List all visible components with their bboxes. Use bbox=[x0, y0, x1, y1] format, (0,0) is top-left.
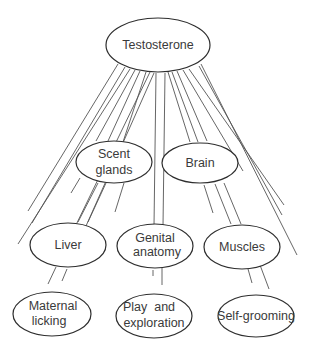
edge-testosterone-brain-1 bbox=[168, 72, 190, 142]
edge-testosterone-far-right-2 bbox=[199, 66, 282, 215]
node-play-exploration-label-2: exploration bbox=[123, 316, 184, 330]
edge-scent-liver-2 bbox=[78, 183, 98, 222]
edge-scent-genital bbox=[115, 183, 124, 212]
edge-testosterone-brain-3 bbox=[177, 71, 207, 141]
edge-scent-liver-3 bbox=[88, 183, 106, 222]
node-scent-glands-label-2: glands bbox=[96, 163, 133, 177]
edge-liver-maternal-2 bbox=[62, 269, 67, 281]
node-genital-anatomy-label-2: anatomy bbox=[133, 245, 182, 259]
edge-muscles-grooming-1 bbox=[248, 269, 252, 283]
edge-testosterone-brain-2 bbox=[172, 72, 198, 142]
edge-scent-liver-1 bbox=[71, 178, 80, 193]
edge-brain-muscles-1 bbox=[204, 185, 213, 213]
edge-testosterone-genital-2 bbox=[163, 73, 165, 226]
edge-testosterone-genital-1 bbox=[154, 73, 156, 226]
node-liver-label: Liver bbox=[54, 238, 81, 252]
node-scent-glands-label-1: Scent bbox=[98, 147, 130, 161]
edge-brain-muscles-2 bbox=[215, 184, 231, 224]
edge-muscles-grooming-2 bbox=[260, 265, 269, 289]
node-maternal-licking-label-1: Maternal bbox=[29, 299, 78, 313]
node-maternal-licking-label-2: licking bbox=[32, 314, 67, 328]
edge-testosterone-far-right-1 bbox=[189, 69, 284, 205]
node-genital-anatomy-label-1: Genital bbox=[135, 231, 175, 245]
node-brain-label: Brain bbox=[185, 156, 214, 170]
node-play-exploration: Play and exploration bbox=[116, 294, 192, 338]
node-muscles-label: Muscles bbox=[219, 240, 265, 254]
node-self-grooming-label: Self-grooming bbox=[217, 309, 295, 323]
node-testosterone-label: Testosterone bbox=[122, 38, 194, 52]
node-genital-anatomy: Genital anatomy bbox=[117, 224, 193, 268]
edge-brain-muscles-3 bbox=[224, 183, 241, 224]
edge-liver-maternal-1 bbox=[48, 267, 56, 284]
node-brain: Brain bbox=[162, 143, 238, 183]
node-muscles: Muscles bbox=[204, 225, 280, 269]
node-maternal-licking: Maternal licking bbox=[13, 292, 91, 336]
node-liver: Liver bbox=[30, 223, 106, 267]
node-scent-glands: Scent glands bbox=[76, 141, 152, 183]
node-play-exploration-label-1: Play and bbox=[123, 300, 175, 314]
node-testosterone: Testosterone bbox=[106, 18, 210, 72]
testosterone-diagram: Testosterone Scent glands Brain Liver Ge… bbox=[0, 0, 313, 342]
node-self-grooming: Self-grooming bbox=[217, 295, 295, 337]
